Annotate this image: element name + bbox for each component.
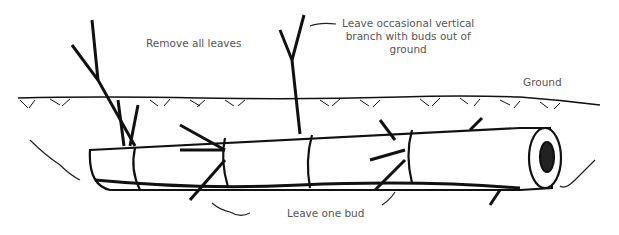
vertical-branch-label-line3: ground (342, 43, 474, 56)
horizontal-stem (90, 128, 561, 190)
remove-leaves-label: Remove all leaves (146, 37, 242, 50)
vertical-branch-label-line2: branch with buds out of (342, 30, 474, 43)
ground-line (18, 96, 600, 109)
vertical-branch-label-line1: Leave occasional vertical (342, 17, 474, 30)
vertical-branch-label: Leave occasional vertical branch with bu… (342, 17, 474, 56)
ground-label: Ground (523, 76, 562, 89)
layering-drawing (0, 0, 619, 235)
one-bud-label: Leave one bud (287, 207, 364, 220)
